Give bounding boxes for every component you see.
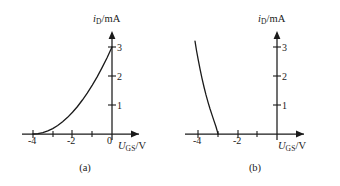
y-axis-arrowhead-b [274,31,281,39]
transfer-curve-b [195,41,218,134]
caption-b: (b) [170,163,340,174]
x-axis-var-b: U [278,140,286,151]
y-axis-unit-b: /mA [267,13,286,24]
y-axis-sub-b: D [261,17,267,26]
chart-panel-b: -4 -2 1 2 3 iD/mA UGS/V (b) [170,0,340,186]
x-axis-sub-b: GS [286,144,296,153]
transfer-curve-a [33,47,112,134]
y-tick-label-2-b: 2 [282,72,287,82]
x-tick-label-minus4-b: -4 [193,136,201,146]
x-axis-var-a: U [118,140,126,151]
chart-panel-a: -4 -2 0 1 2 3 iD/mA UGS/V (a) [0,0,170,186]
y-axis-title-a: iD/mA [93,14,120,25]
chart-b-canvas [170,0,340,186]
x-axis-title-a: UGS/V [118,141,146,152]
x-tick-label-minus4-a: -4 [28,136,36,146]
y-tick-label-1-a: 1 [117,101,122,111]
y-tick-label-3-a: 3 [117,43,122,53]
y-axis-sub-a: D [96,17,102,26]
y-tick-label-1-b: 1 [282,101,287,111]
x-axis-unit-b: /V [296,140,307,151]
y-axis-arrowhead-a [109,31,116,39]
y-tick-label-3-b: 3 [282,43,287,53]
y-axis-unit-a: /mA [102,13,121,24]
x-tick-label-minus2-a: -2 [67,136,75,146]
x-tick-label-0-a: 0 [107,136,112,146]
x-axis-arrowhead-a [131,131,139,138]
x-tick-label-minus2-b: -2 [233,136,241,146]
x-axis-unit-a: /V [136,140,147,151]
figure-root: -4 -2 0 1 2 3 iD/mA UGS/V (a) [0,0,340,186]
y-tick-label-2-a: 2 [117,72,122,82]
caption-a: (a) [0,163,170,174]
y-axis-title-b: iD/mA [258,14,285,25]
x-axis-sub-a: GS [126,144,136,153]
x-axis-title-b: UGS/V [278,141,306,152]
chart-a-canvas [0,0,170,186]
x-axis-arrowhead-b [296,131,304,138]
